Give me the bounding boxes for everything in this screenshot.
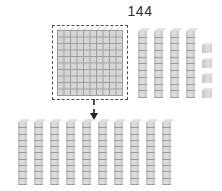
ones-cubes-group: [202, 45, 212, 98]
tens-rods-group: [138, 31, 195, 98]
ten-rod: [50, 122, 59, 185]
base-ten-blocks-figure: 144: [0, 0, 222, 191]
ten-rod: [170, 31, 179, 98]
hundred-flat-block: [57, 30, 123, 96]
arrow-down-icon: [88, 99, 100, 121]
ten-rod: [114, 122, 123, 185]
one-unit-cube: [202, 90, 212, 98]
ten-rod: [154, 31, 163, 98]
one-unit-cube: [202, 45, 212, 53]
ten-rod: [186, 31, 195, 98]
ten-rod: [34, 122, 43, 185]
regrouped-tens-rods-group: [18, 122, 171, 185]
ten-rod: [66, 122, 75, 185]
one-unit-cube: [202, 75, 212, 83]
ten-rod: [98, 122, 107, 185]
one-unit-cube: [202, 60, 212, 68]
hundred-block-dashed-outline: [52, 25, 128, 100]
ten-rod: [146, 122, 155, 185]
ten-rod: [162, 122, 171, 185]
number-label: 144: [121, 3, 159, 19]
ten-rod: [138, 31, 147, 98]
ten-rod: [130, 122, 139, 185]
ten-rod: [18, 122, 27, 185]
ten-rod: [82, 122, 91, 185]
